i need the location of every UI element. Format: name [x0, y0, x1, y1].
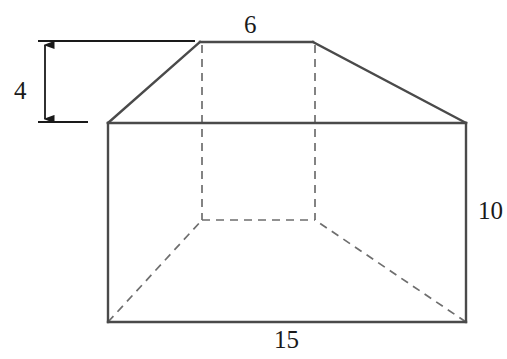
geometry-figure: 6 15 10 4: [0, 0, 507, 359]
dimension-label-top-width: 6: [244, 12, 257, 37]
dimension-label-bottom-width: 15: [274, 327, 299, 352]
hidden-edge-diagonal-right: [315, 220, 466, 322]
roof-slant-left-edge: [108, 42, 200, 123]
dimension-4-group: [38, 41, 195, 122]
solid-outline-group: [108, 42, 466, 322]
dimension-label-right-height: 10: [478, 198, 503, 223]
geometry-canvas: [0, 0, 507, 359]
hidden-edge-diagonal-left: [108, 220, 202, 322]
hidden-edges-group: [108, 45, 466, 322]
roof-slant-right-edge: [313, 42, 466, 123]
dimension-label-left-height: 4: [14, 78, 27, 103]
